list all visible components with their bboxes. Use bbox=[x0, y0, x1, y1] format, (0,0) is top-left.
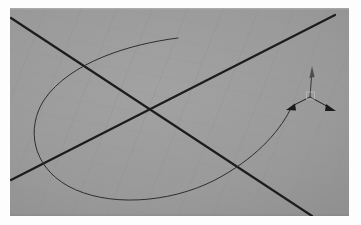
viewport-screenshot-root bbox=[0, 0, 361, 225]
perspective-viewport[interactable] bbox=[10, 8, 349, 216]
viewport-canvas[interactable] bbox=[10, 8, 349, 216]
construction-plane-grid bbox=[10, 8, 349, 216]
